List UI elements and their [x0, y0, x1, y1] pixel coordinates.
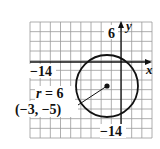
center-label: (−3, −5) — [15, 102, 62, 118]
y-axis-label: y — [124, 18, 132, 33]
y-tick-label-6: 6 — [108, 26, 115, 41]
grid-lines — [30, 22, 152, 138]
x-axis-label: x — [145, 62, 153, 77]
x-tick-label-neg14: −14 — [30, 64, 52, 79]
radius-value: = 6 — [41, 86, 63, 101]
radius-label: r = 6 — [36, 86, 63, 101]
center-point — [104, 83, 109, 88]
y-tick-label-neg14: −14 — [100, 124, 122, 139]
coordinate-plot: −14 6 −14 x y r = 6 (−3, −5) — [0, 0, 160, 149]
radius-segment — [78, 86, 107, 105]
